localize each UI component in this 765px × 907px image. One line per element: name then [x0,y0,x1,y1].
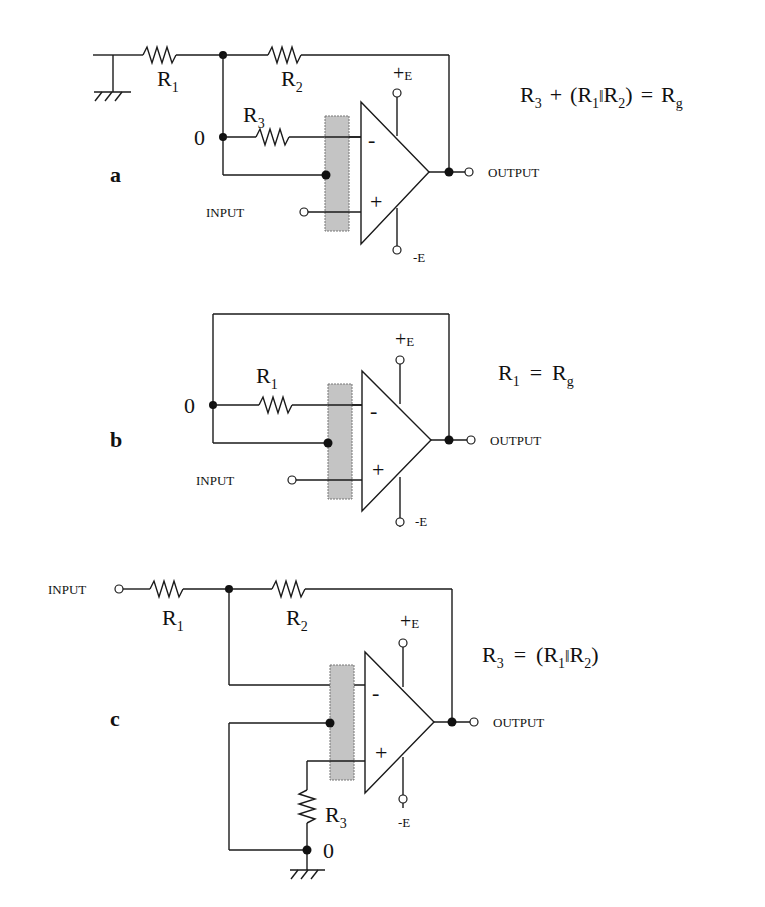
resistor-r2-icon [272,581,305,597]
output-terminal [465,168,473,176]
positive-supply-terminal [399,639,407,647]
op-amp-circuit-figure: a R1 R2 0 R3 [0,0,765,907]
output-label: OUTPUT [490,433,541,448]
equation-b: R1=Rg [498,360,574,389]
positive-supply-terminal [396,356,404,364]
noninverting-sign: + [375,740,387,765]
resistor-r3-icon [299,790,315,823]
panel-label-c: c [110,706,120,731]
ground-icon [290,870,325,879]
resistor-r1-icon [143,47,176,63]
negative-supply-terminal [396,518,404,526]
negative-supply-terminal [399,795,407,803]
node-zero-label: 0 [323,838,334,863]
positive-supply-terminal [393,89,401,97]
output-label: OUTPUT [488,165,539,180]
ground-icon [93,55,131,101]
node-zero-label: 0 [194,125,205,150]
r1-label: R1 [256,363,278,392]
equation-a: R3+(R1ǁR2)=Rg [520,82,683,111]
inverting-sign: - [370,398,377,423]
r2-label: R2 [281,66,303,95]
junction-node [448,718,457,727]
input-label: INPUT [206,205,244,220]
positive-supply-label: +E [400,610,419,632]
noninverting-sign: + [370,189,382,214]
r3-label: R3 [243,102,265,131]
equation-c: R3=(R1ǁR2) [482,642,599,671]
r1-label: R1 [157,66,179,95]
input-terminal [115,585,123,593]
negative-supply-terminal [393,246,401,254]
positive-supply-label: +E [395,328,414,350]
op-amp-triangle [361,102,429,244]
r3-label: R3 [325,802,347,831]
negative-supply-label: -E [415,514,427,529]
resistor-r1-icon [150,581,183,597]
resistor-r2-icon [268,47,301,63]
op-amp-triangle [365,652,434,793]
panel-label-a: a [110,162,121,187]
junction-node [445,168,454,177]
output-terminal [470,718,478,726]
inverting-sign: - [372,680,379,705]
negative-supply-label: -E [413,250,425,265]
junction-node [322,171,331,180]
output-terminal [467,436,475,444]
r1-label: R1 [162,605,184,634]
junction-node [303,846,312,855]
circuit-b: b 0 R1 INPUT - + +E -E OUTP [110,314,574,529]
junction-node [445,436,454,445]
panel-label-b: b [110,427,122,452]
node-zero-label: 0 [184,393,195,418]
positive-supply-label: +E [393,62,412,84]
resistor-r3-icon [256,129,289,145]
negative-supply-label: -E [398,815,410,830]
input-label: INPUT [48,582,86,597]
noninverting-sign: + [372,457,384,482]
resistor-r1-icon [259,397,292,413]
output-label: OUTPUT [493,715,544,730]
inverting-sign: - [368,127,375,152]
input-terminal [288,476,296,484]
circuit-c: c INPUT R1 R2 R3 0 [48,581,599,879]
r2-label: R2 [286,605,308,634]
input-label: INPUT [196,473,234,488]
junction-node [326,719,335,728]
op-amp-triangle [362,371,431,511]
input-terminal [300,208,308,216]
circuit-a: a R1 R2 0 R3 [93,47,683,265]
junction-node [324,439,333,448]
